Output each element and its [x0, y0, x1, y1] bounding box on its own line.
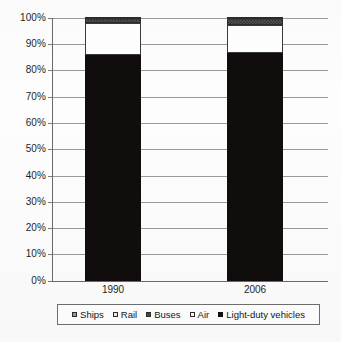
y-axis-label-20: 20%	[4, 223, 46, 233]
bar-2006[interactable]	[227, 18, 283, 281]
y-axis-label-10: 10%	[4, 249, 46, 259]
legend-item-ships[interactable]: Ships	[72, 310, 104, 320]
bar-segment-1990-ships[interactable]	[85, 17, 141, 19]
buses-swatch-icon	[146, 312, 151, 317]
x-axis-label-1990: 1990	[78, 284, 148, 295]
legend-label-ships: Ships	[80, 310, 104, 320]
plot-area: 100% 90% 80% 70% 60% 50% 40% 30% 20% 10%…	[0, 0, 341, 300]
y-axis-label-60: 60%	[4, 118, 46, 128]
bar-segment-2006-ships[interactable]	[227, 17, 283, 19]
y-axis-label-90: 90%	[4, 39, 46, 49]
legend-label-buses: Buses	[154, 310, 180, 320]
x-axis-label-2006: 2006	[220, 284, 290, 295]
y-axis-label-80: 80%	[4, 65, 46, 75]
bar-segment-2006-air[interactable]	[227, 25, 283, 53]
legend-item-rail[interactable]: Rail	[113, 310, 137, 320]
legend-item-buses[interactable]: Buses	[146, 310, 180, 320]
legend-item-light-duty-vehicles[interactable]: Light-duty vehicles	[218, 310, 305, 320]
y-axis-label-40: 40%	[4, 171, 46, 181]
bar-segment-1990-light-duty-vehicles[interactable]	[85, 55, 141, 281]
bar-segment-1990-air[interactable]	[85, 23, 141, 55]
legend-label-light-duty-vehicles: Light-duty vehicles	[226, 310, 305, 320]
air-swatch-icon	[190, 312, 195, 317]
legend-item-air[interactable]: Air	[190, 310, 210, 320]
y-axis-labels: 100% 90% 80% 70% 60% 50% 40% 30% 20% 10%…	[4, 0, 46, 300]
y-axis-line	[52, 18, 53, 281]
light-duty-vehicles-swatch-icon	[218, 312, 223, 317]
rail-swatch-icon	[113, 312, 118, 317]
ytick-mark-0	[48, 281, 52, 282]
y-axis-label-30: 30%	[4, 197, 46, 207]
legend-label-air: Air	[198, 310, 210, 320]
y-axis-label-100: 100%	[4, 13, 46, 23]
stacked-bar-chart: 100% 90% 80% 70% 60% 50% 40% 30% 20% 10%…	[0, 0, 341, 342]
bar-1990[interactable]	[85, 18, 141, 281]
gridline-0	[52, 281, 328, 282]
y-axis-label-70: 70%	[4, 92, 46, 102]
ships-swatch-icon	[72, 312, 77, 317]
bar-segment-2006-light-duty-vehicles[interactable]	[227, 52, 283, 281]
y-axis-label-50: 50%	[4, 144, 46, 154]
y-axis-label-0: 0%	[4, 276, 46, 286]
legend-label-rail: Rail	[121, 310, 137, 320]
chart-legend: Ships Rail Buses Air Light-duty vehicles	[57, 304, 320, 325]
